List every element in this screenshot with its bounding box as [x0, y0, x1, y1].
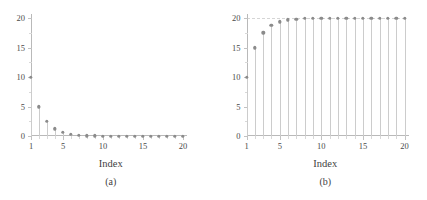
stem-line: [380, 18, 381, 136]
x-minor-tick: [338, 136, 339, 139]
data-point-marker: [85, 134, 88, 137]
y-tick-label: 15: [232, 43, 241, 52]
stem-line: [271, 25, 272, 136]
x-minor-tick: [55, 136, 56, 139]
stem-line: [330, 18, 331, 136]
x-minor-tick: [71, 136, 72, 139]
x-tick-mark: [363, 136, 364, 140]
y-tick-mark: [28, 48, 32, 49]
x-minor-tick: [380, 136, 381, 139]
x-minor-tick: [47, 136, 48, 139]
x-tick-label: 15: [139, 142, 148, 151]
data-point-marker: [386, 16, 389, 19]
data-point-marker: [245, 75, 248, 78]
data-point-marker: [157, 134, 160, 137]
x-minor-tick: [271, 136, 272, 139]
x-tick-label: 10: [99, 142, 108, 151]
y-tick-label: 5: [21, 102, 25, 111]
y-minor-tick: [245, 33, 248, 34]
stem-line: [338, 18, 339, 136]
stem-line: [371, 18, 372, 136]
stem-line: [39, 107, 40, 137]
x-tick-mark: [63, 136, 64, 140]
data-point-marker: [149, 134, 152, 137]
x-minor-tick: [305, 136, 306, 139]
stem-line: [280, 22, 281, 136]
x-minor-tick: [79, 136, 80, 139]
stem-line: [31, 77, 32, 136]
figure-row: 05101520 15101520 Index (a) 05101520 151…: [0, 0, 427, 200]
x-tick-mark: [280, 136, 281, 140]
x-minor-tick: [296, 136, 297, 139]
x-minor-tick: [371, 136, 372, 139]
stem-line: [405, 18, 406, 136]
data-point-marker: [141, 134, 144, 137]
data-point-marker: [353, 16, 356, 19]
data-point-marker: [101, 134, 104, 137]
panel-caption-a: (a): [8, 176, 214, 187]
stem-line: [346, 18, 347, 136]
data-point-marker: [328, 16, 331, 19]
data-point-marker: [37, 105, 40, 108]
data-point-marker: [378, 16, 381, 19]
data-point-marker: [295, 17, 298, 20]
panel-caption-b: (b): [224, 176, 427, 187]
data-point-marker: [311, 17, 314, 20]
x-minor-tick: [313, 136, 314, 139]
y-tick-label: 0: [236, 132, 240, 141]
data-point-marker: [29, 75, 32, 78]
x-tick-mark: [405, 136, 406, 140]
data-point-marker: [345, 16, 348, 19]
data-point-marker: [133, 134, 136, 137]
x-tick-label: 5: [278, 142, 282, 151]
y-tick-label: 15: [17, 43, 26, 52]
x-minor-tick: [355, 136, 356, 139]
y-minor-tick: [245, 62, 248, 63]
stem-line: [263, 33, 264, 136]
y-tick-label: 5: [236, 102, 240, 111]
x-minor-tick: [39, 136, 40, 139]
data-point-marker: [165, 134, 168, 137]
data-point-marker: [394, 16, 397, 19]
x-tick-mark: [321, 136, 322, 140]
panel-b: 05101520 15101520 Index (b): [214, 0, 427, 200]
data-point-marker: [253, 46, 256, 49]
x-minor-tick: [330, 136, 331, 139]
data-point-marker: [320, 16, 323, 19]
y-tick-mark: [244, 48, 248, 49]
stem-line: [321, 18, 322, 136]
data-point-marker: [117, 134, 120, 137]
data-point-marker: [361, 16, 364, 19]
stem-line: [247, 77, 248, 136]
data-point-marker: [286, 18, 289, 21]
x-tick-label: 20: [400, 142, 409, 151]
x-tick-label: 1: [244, 142, 248, 151]
x-tick-label: 20: [179, 142, 188, 151]
stem-line: [355, 18, 356, 136]
x-tick-label: 10: [317, 142, 326, 151]
data-point-marker: [45, 120, 48, 123]
data-point-marker: [261, 31, 264, 34]
x-minor-tick: [388, 136, 389, 139]
y-tick-label: 10: [232, 73, 241, 82]
stem-line: [296, 19, 297, 136]
y-minor-tick: [29, 62, 32, 63]
stem-line: [47, 121, 48, 136]
plot-area-b: 05101520 15101520: [247, 18, 405, 136]
x-tick-label: 15: [359, 142, 368, 151]
data-point-marker: [336, 16, 339, 19]
data-point-marker: [270, 24, 273, 27]
data-point-marker: [53, 127, 56, 130]
x-minor-tick: [255, 136, 256, 139]
x-minor-tick: [346, 136, 347, 139]
x-axis-title-b: Index: [224, 158, 427, 169]
y-tick-mark: [28, 18, 32, 19]
data-point-marker: [370, 16, 373, 19]
data-point-marker: [61, 131, 64, 134]
stem-line: [396, 18, 397, 136]
data-point-marker: [303, 17, 306, 20]
stem-line: [288, 20, 289, 136]
y-tick-label: 0: [21, 132, 25, 141]
panel-a: 05101520 15101520 Index (a): [0, 0, 214, 200]
y-tick-mark: [244, 18, 248, 19]
